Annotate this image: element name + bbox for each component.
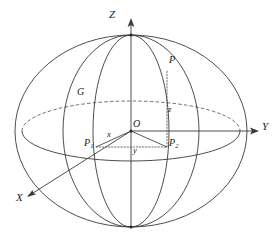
label-component-x: x [107, 130, 111, 139]
label-axis-x: X [16, 192, 23, 203]
point-south-pole-dot [130, 226, 133, 229]
segment-o-p1 [96, 131, 131, 147]
label-point-p1: P1 [84, 138, 94, 149]
label-point-g: G [77, 87, 84, 97]
label-point-p2: P2 [169, 138, 179, 149]
label-axis-y: Y [262, 121, 268, 132]
label-component-z: z [168, 105, 171, 114]
sphere-coordinate-diagram: Z Y X O P P1 P2 G x y z [0, 0, 279, 239]
point-origin-dot [130, 130, 133, 133]
x-axis-line [33, 131, 131, 193]
point-north-pole-dot [130, 34, 133, 37]
label-point-p: P [169, 55, 175, 65]
label-point-p2-subscript: 2 [175, 142, 178, 149]
label-axis-z: Z [109, 9, 115, 20]
label-point-p1-subscript: 1 [90, 142, 93, 149]
label-origin: O [133, 119, 140, 129]
label-component-y: y [133, 146, 137, 155]
x-axis-arrowhead [27, 190, 36, 197]
